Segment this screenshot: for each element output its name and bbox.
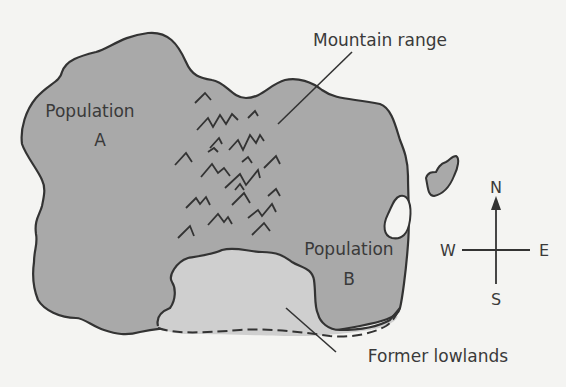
north-arrow-icon bbox=[491, 196, 501, 210]
population-b-letter: B bbox=[343, 269, 355, 289]
population-a-letter: A bbox=[94, 130, 106, 150]
population-a-label: Population bbox=[45, 101, 134, 121]
small-island bbox=[426, 156, 458, 196]
mountain-range-label: Mountain range bbox=[313, 30, 447, 50]
compass-rose bbox=[462, 196, 530, 284]
compass-west-label: W bbox=[440, 241, 456, 260]
compass-north-label: N bbox=[490, 178, 502, 197]
island-map: Population A Population B Mountain range… bbox=[0, 0, 566, 387]
compass-south-label: S bbox=[491, 290, 501, 309]
population-b-label: Population bbox=[304, 239, 393, 259]
compass-east-label: E bbox=[539, 241, 549, 260]
former-lowlands-label: Former lowlands bbox=[368, 346, 508, 366]
